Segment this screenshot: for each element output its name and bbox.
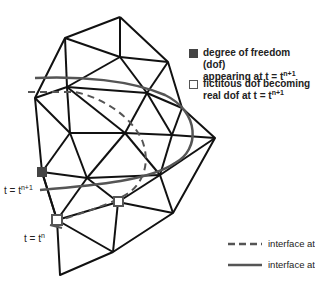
- legend-sup: n+1: [272, 89, 284, 96]
- filled-dof-marker: [37, 167, 47, 177]
- legend-solid-text: interface at t = tn+1: [268, 259, 315, 270]
- label-t-n: t = tn: [24, 233, 45, 245]
- legend-line: degree of freedom (dof): [203, 47, 315, 71]
- open-dof-marker: [114, 197, 123, 206]
- open-dof-marker: [52, 215, 62, 225]
- legend-dashed-text: interface at t = tn: [268, 238, 315, 249]
- label-text: t = t: [24, 233, 41, 244]
- legend-line: fictitous dof becoming: [203, 78, 310, 90]
- diagram-figure: t = tn+1 t = tn degree of freedom (dof) …: [0, 0, 315, 289]
- filled-square-icon: [189, 49, 198, 58]
- legend-line: real dof at t = tn+1: [203, 90, 310, 102]
- mesh-edges: [35, 17, 215, 275]
- open-square-icon: [189, 80, 198, 89]
- legend-sup: n+1: [283, 70, 295, 77]
- label-sup: n: [41, 232, 45, 239]
- interface-curve-tn: [28, 92, 146, 222]
- label-sup: n+1: [21, 184, 33, 191]
- legend-solid-line: interface at t = tn+1: [262, 259, 315, 270]
- label-text: t = t: [4, 185, 21, 196]
- legend-dashed-line: interface at t = tn: [262, 238, 315, 249]
- legend-open-dof: fictitous dof becoming real dof at t = t…: [189, 78, 310, 102]
- legend-text: interface at t = t: [268, 259, 315, 270]
- legend-text: interface at t = t: [268, 238, 315, 249]
- legend-text: real dof at t = t: [203, 90, 272, 101]
- label-t-np1: t = tn+1: [4, 185, 33, 197]
- legend-open-text: fictitous dof becoming real dof at t = t…: [203, 78, 310, 102]
